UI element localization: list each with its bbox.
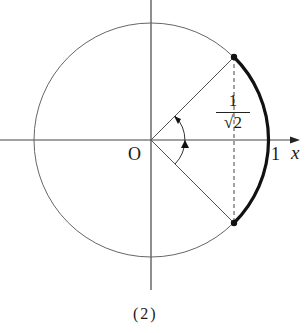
arc-endpoint-upper	[231, 54, 237, 60]
radius-lower	[151, 140, 234, 223]
figure-caption: (2)	[133, 305, 158, 323]
sqrt-radicand: 2	[233, 112, 242, 132]
fraction-denominator: √2	[216, 114, 250, 132]
origin-label: O	[128, 144, 141, 165]
fraction-label: 1 √2	[216, 92, 250, 132]
angle-arrow-mid-icon	[181, 140, 189, 148]
unit-circle-diagram	[0, 0, 305, 333]
fraction-numerator: 1	[216, 92, 250, 110]
unit-label: 1	[271, 144, 280, 165]
arc-endpoint-lower	[231, 220, 237, 226]
x-axis-label: x	[291, 142, 299, 164]
